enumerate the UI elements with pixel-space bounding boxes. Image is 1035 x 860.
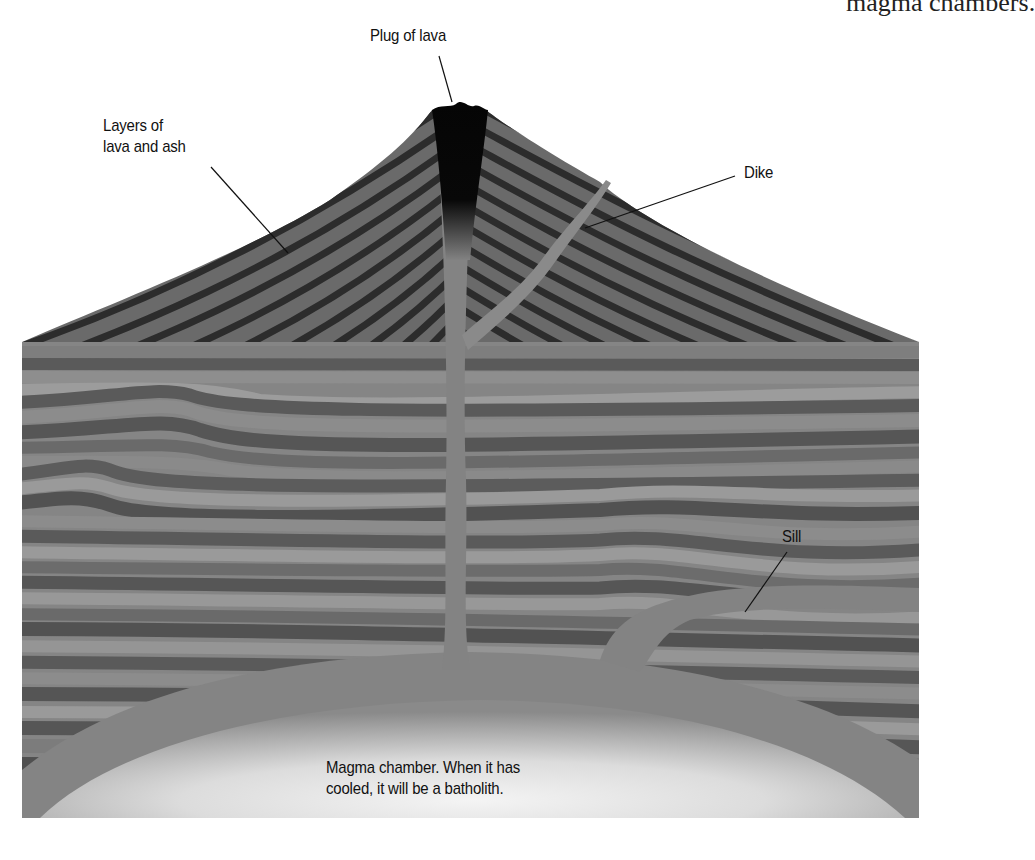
- label-sill: Sill: [782, 527, 801, 547]
- label-magma-chamber-line1: Magma chamber. When it has: [326, 758, 520, 778]
- label-magma-chamber-line2: cooled, it will be a batholith.: [326, 779, 503, 799]
- label-plug-of-lava: Plug of lava: [370, 26, 446, 46]
- rock-strata: [0, 342, 942, 818]
- label-dike: Dike: [744, 163, 773, 183]
- label-layers-line1: Layers of: [103, 116, 163, 136]
- label-layers-line2: lava and ash: [103, 137, 186, 157]
